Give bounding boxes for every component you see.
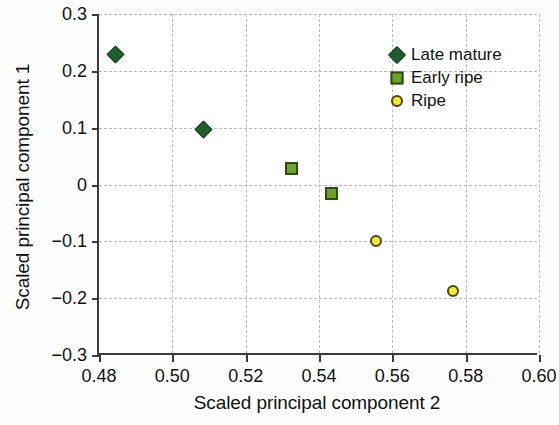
gridline-horizontal: [99, 185, 537, 186]
y-axis-tick-label: 0.3: [17, 2, 87, 26]
data-point: [285, 162, 298, 175]
legend-item: Ripe: [388, 90, 502, 111]
x-axis-tick: [539, 355, 541, 362]
legend-item: Early ripe: [388, 67, 502, 88]
x-axis-tick-label: 0.58: [431, 366, 501, 387]
gridline-horizontal: [99, 128, 537, 129]
y-axis-tick: [92, 14, 99, 16]
diamond-marker-icon: [388, 46, 405, 63]
gridline-vertical: [319, 14, 320, 353]
x-axis-tick-label: 0.52: [211, 366, 281, 387]
y-axis-tick-label: −0.1: [17, 229, 87, 253]
gridline-vertical: [539, 14, 540, 353]
x-axis-tick-label: 0.56: [357, 366, 427, 387]
x-axis-tick: [466, 355, 468, 362]
legend-item: Late mature: [388, 44, 502, 65]
x-axis-tick: [172, 355, 174, 362]
data-point: [325, 187, 338, 200]
x-axis-title: Scaled principal component 2: [97, 392, 537, 414]
legend-label: Early ripe: [411, 68, 483, 88]
data-point: [194, 121, 212, 139]
legend: Late matureEarly ripeRipe: [388, 44, 502, 111]
y-axis-tick: [92, 355, 99, 357]
data-point: [447, 285, 459, 297]
gridline-vertical: [172, 14, 173, 353]
y-axis-tick: [92, 298, 99, 300]
x-axis-tick: [319, 355, 321, 362]
y-axis-tick-label: −0.2: [17, 286, 87, 310]
x-axis-tick-label: 0.60: [504, 366, 559, 387]
gridline-horizontal: [99, 241, 537, 242]
gridline-horizontal: [99, 14, 537, 15]
x-axis-tick-label: 0.48: [64, 366, 134, 387]
legend-label: Late mature: [411, 45, 502, 65]
scatter-plot-figure: Scaled principal component 1 Scaled prin…: [0, 0, 559, 425]
y-axis-tick-label: −0.3: [17, 343, 87, 367]
x-axis-tick: [246, 355, 248, 362]
x-axis-tick-label: 0.54: [284, 366, 354, 387]
x-axis-tick: [99, 355, 101, 362]
x-axis-tick: [392, 355, 394, 362]
y-axis-tick-label: 0.2: [17, 59, 87, 83]
y-axis-tick-label: 0.1: [17, 116, 87, 140]
x-axis-tick-label: 0.50: [137, 366, 207, 387]
y-axis-tick: [92, 185, 99, 187]
circle-marker-icon: [388, 92, 405, 109]
legend-label: Ripe: [411, 91, 446, 111]
y-axis-tick: [92, 241, 99, 243]
gridline-vertical: [246, 14, 247, 353]
data-point: [106, 46, 124, 64]
y-axis-tick-label: 0: [17, 173, 87, 197]
y-axis-tick: [92, 71, 99, 73]
data-point: [370, 235, 382, 247]
y-axis-tick: [92, 128, 99, 130]
gridline-horizontal: [99, 298, 537, 299]
square-marker-icon: [388, 69, 405, 86]
